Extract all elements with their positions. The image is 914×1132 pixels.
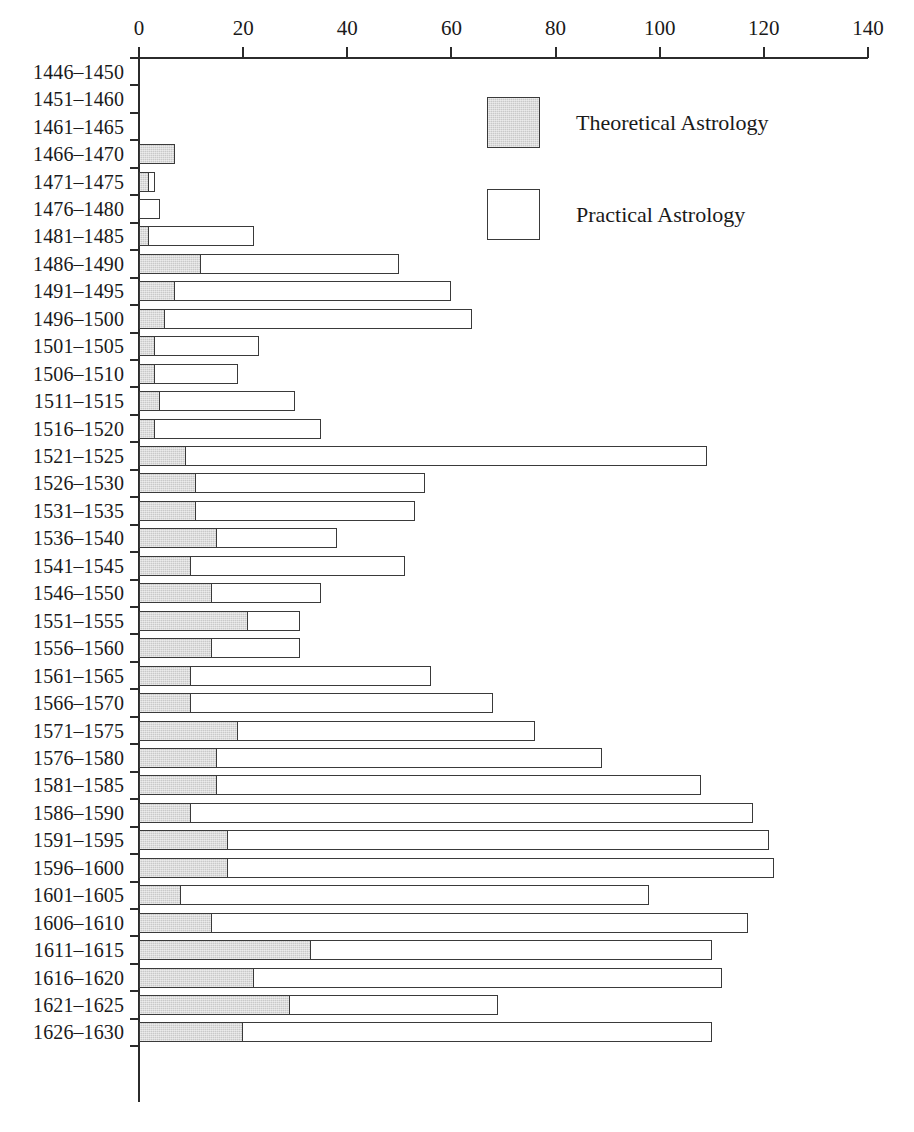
bar-group <box>139 336 259 356</box>
y-axis-tick <box>130 826 140 828</box>
bar-group <box>139 803 753 823</box>
y-axis-category-label: 1566–1570 <box>33 692 124 714</box>
bar-segment-theoretical <box>139 446 186 466</box>
y-axis-category-label: 1606–1610 <box>33 912 124 934</box>
legend-item-theoretical: Theoretical Astrology <box>487 97 768 148</box>
bar-segment-practical <box>139 446 707 466</box>
y-axis-tick <box>130 496 140 498</box>
bar-segment-theoretical <box>139 309 165 329</box>
y-axis-tick <box>130 469 140 471</box>
bar-group <box>139 968 722 988</box>
legend-swatch-practical-icon <box>487 189 540 240</box>
y-axis-category-label: 1531–1535 <box>33 500 124 522</box>
bar-group <box>139 528 337 548</box>
bar-group <box>139 446 707 466</box>
bar-group <box>139 995 498 1015</box>
x-axis-tick-label: 120 <box>748 16 780 40</box>
y-axis-category-label: 1516–1520 <box>33 418 124 440</box>
y-axis-tick <box>130 908 140 910</box>
y-axis-category-label: 1601–1605 <box>33 884 124 906</box>
x-axis-tick-label: 0 <box>134 16 145 40</box>
bar-segment-theoretical <box>139 336 155 356</box>
y-axis-tick <box>130 249 140 251</box>
y-axis-category-label: 1616–1620 <box>33 967 124 989</box>
legend-item-practical: Practical Astrology <box>487 189 745 240</box>
x-axis-tick-label: 100 <box>644 16 676 40</box>
y-axis-category-label: 1491–1495 <box>33 280 124 302</box>
bar-group <box>139 858 774 878</box>
y-axis-tick <box>130 112 140 114</box>
y-axis-category-label: 1621–1625 <box>33 994 124 1016</box>
y-axis-tick <box>130 853 140 855</box>
bar-segment-theoretical <box>139 803 191 823</box>
bar-group <box>139 144 175 164</box>
bar-group <box>139 940 712 960</box>
bar-segment-practical <box>139 336 259 356</box>
bar-group <box>139 721 535 741</box>
bar-segment-theoretical <box>139 226 149 246</box>
y-axis-category-label: 1451–1460 <box>33 88 124 110</box>
y-axis-tick <box>130 139 140 141</box>
y-axis-category-label: 1571–1575 <box>33 720 124 742</box>
y-axis-tick <box>130 441 140 443</box>
y-axis-category-label: 1561–1565 <box>33 665 124 687</box>
bar-group <box>139 748 602 768</box>
y-axis-category-label: 1446–1450 <box>33 61 124 83</box>
bar-group <box>139 638 300 658</box>
y-axis-category-label: 1461–1465 <box>33 116 124 138</box>
bar-segment-practical <box>139 281 451 301</box>
bar-group <box>139 501 415 521</box>
y-axis-tick <box>130 935 140 937</box>
bar-segment-theoretical <box>139 968 254 988</box>
y-axis-category-label: 1506–1510 <box>33 363 124 385</box>
y-axis-tick <box>130 633 140 635</box>
bar-segment-theoretical <box>139 144 175 164</box>
y-axis-tick <box>130 167 140 169</box>
y-axis-tick <box>130 881 140 883</box>
bar-group <box>139 885 649 905</box>
x-axis-tick-label: 40 <box>337 16 358 40</box>
bar-segment-theoretical <box>139 391 160 411</box>
bar-segment-practical <box>139 775 701 795</box>
y-axis-tick <box>130 414 140 416</box>
bar-group <box>139 775 701 795</box>
bar-segment-theoretical <box>139 583 212 603</box>
y-axis-tick <box>130 386 140 388</box>
bar-segment-practical <box>139 309 472 329</box>
y-axis-category-label: 1511–1515 <box>34 390 124 412</box>
y-axis-category-label: 1626–1630 <box>33 1021 124 1043</box>
bar-segment-theoretical <box>139 721 238 741</box>
y-axis-tick <box>130 359 140 361</box>
y-axis-tick <box>130 798 140 800</box>
bar-segment-theoretical <box>139 830 228 850</box>
bar-segment-theoretical <box>139 528 217 548</box>
bar-segment-theoretical <box>139 995 290 1015</box>
bar-group <box>139 281 451 301</box>
bar-chart-figure: 020406080100120140 1446–14501451–1460146… <box>0 0 914 1132</box>
bar-segment-theoretical <box>139 748 217 768</box>
bar-group <box>139 419 321 439</box>
y-axis-tick <box>130 743 140 745</box>
y-axis-tick <box>130 332 140 334</box>
y-axis-category-label: 1596–1600 <box>33 857 124 879</box>
y-axis-category-label: 1476–1480 <box>33 198 124 220</box>
y-axis-category-label: 1496–1500 <box>33 308 124 330</box>
legend-label-practical: Practical Astrology <box>576 203 745 227</box>
bar-segment-theoretical <box>139 473 196 493</box>
x-axis-line <box>139 57 868 59</box>
bar-group <box>139 1022 712 1042</box>
y-axis-tick <box>130 688 140 690</box>
bar-group <box>139 391 295 411</box>
bar-group <box>139 830 769 850</box>
y-axis-tick <box>130 579 140 581</box>
bar-group <box>139 693 493 713</box>
bar-group <box>139 556 405 576</box>
y-axis-category-label: 1536–1540 <box>33 527 124 549</box>
x-axis-tick-label: 140 <box>852 16 884 40</box>
y-axis-tick <box>130 57 140 59</box>
y-axis-category-label: 1546–1550 <box>33 582 124 604</box>
y-axis-category-label: 1591–1595 <box>33 829 124 851</box>
y-axis-category-label: 1521–1525 <box>33 445 124 467</box>
bar-segment-theoretical <box>139 254 201 274</box>
bar-segment-theoretical <box>139 172 149 192</box>
